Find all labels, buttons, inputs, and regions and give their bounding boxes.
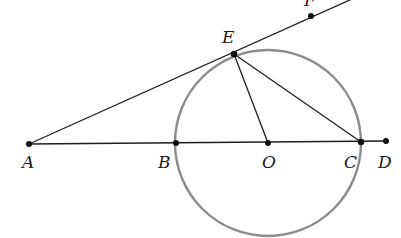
point-b — [173, 140, 179, 146]
label-c: C — [344, 152, 357, 172]
point-e — [231, 51, 238, 58]
tangent-line-af — [29, 0, 352, 144]
label-d: D — [377, 152, 392, 172]
segment-eo — [234, 54, 268, 143]
label-b: B — [157, 152, 171, 172]
label-f: F — [303, 0, 317, 10]
point-o — [265, 140, 271, 146]
segment-ec — [234, 54, 361, 142]
label-a: A — [20, 152, 34, 172]
point-d — [383, 138, 389, 144]
label-o: O — [262, 152, 276, 172]
label-e: E — [221, 27, 235, 47]
point-f — [308, 13, 314, 19]
geometry-diagram: A B O C D E F — [0, 0, 401, 238]
point-c — [358, 139, 364, 145]
point-a — [26, 141, 32, 147]
line-ad — [29, 141, 386, 144]
